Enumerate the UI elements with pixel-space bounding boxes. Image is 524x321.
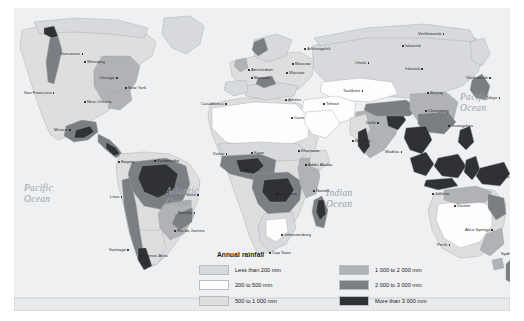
city-name: Brasilia xyxy=(178,210,192,215)
region-new-zealand xyxy=(506,260,510,282)
legend-swatch-more-than-3000 xyxy=(339,296,369,306)
city-label: Amsterdam xyxy=(248,68,273,72)
city-name: Cairo xyxy=(294,115,304,120)
city-label: Omsk xyxy=(355,61,369,65)
legend-label-2000-to-3000: 2 000 to 3 000 mm xyxy=(375,282,422,288)
city-marker-dot xyxy=(499,97,501,99)
legend-column-right: 1 000 to 2 000 mm 2 000 to 3 000 mm More… xyxy=(339,263,427,310)
indian-ocean: IndianOcean xyxy=(326,188,353,210)
city-name: Jakarta xyxy=(435,191,449,196)
city-label: Chicago xyxy=(99,76,118,80)
city-label: Bogota xyxy=(118,160,135,164)
city-marker-dot xyxy=(82,53,84,55)
city-marker-dot xyxy=(454,205,456,207)
city-label: Vladivostok xyxy=(466,76,491,80)
city-marker-dot xyxy=(118,161,120,163)
city-marker-dot xyxy=(491,229,493,231)
city-name: Addis Ababa xyxy=(308,162,332,167)
city-label: Khartoum xyxy=(298,149,320,153)
city-name: Warsaw xyxy=(289,70,304,75)
ocean-label-line: Ocean xyxy=(166,197,198,208)
city-label: Brussels xyxy=(251,76,270,80)
city-marker-dot xyxy=(298,150,300,152)
city-name: San Francisco xyxy=(24,90,51,95)
city-marker-dot xyxy=(194,212,196,214)
legend-item: 500 to 1 000 mm xyxy=(199,294,281,307)
ocean-label-line: Pacific xyxy=(460,92,489,103)
ocean-label-line: Indian xyxy=(326,188,353,199)
city-marker-dot xyxy=(125,87,127,89)
city-label: Lagos xyxy=(245,168,260,172)
city-name: Perth xyxy=(437,242,447,247)
city-name: Guangzhou xyxy=(451,123,473,128)
city-name: Buenos Aires xyxy=(143,253,168,258)
city-label: Vancouver xyxy=(60,52,83,56)
legend-item: 200 to 500 mm xyxy=(199,279,281,292)
region-sahara-dry xyxy=(212,102,310,148)
ocean-label-line: Ocean xyxy=(326,199,353,210)
city-name: Lagos xyxy=(248,167,260,172)
city-marker-dot xyxy=(69,129,71,131)
city-label: Buenos Aires xyxy=(140,254,168,258)
city-label: Jakarta xyxy=(432,192,449,196)
city-label: Athens xyxy=(285,98,301,102)
city-label: Madras xyxy=(385,150,402,154)
city-marker-dot xyxy=(427,92,429,94)
city-label: Lima xyxy=(110,195,122,199)
city-label: Rio de Janeiro xyxy=(174,229,205,233)
city-label: Warsaw xyxy=(286,71,304,75)
city-label: Arkhangelsk xyxy=(304,47,331,51)
city-label: Dakar xyxy=(213,152,227,156)
city-marker-dot xyxy=(432,193,434,195)
city-marker-dot xyxy=(245,169,247,171)
city-name: Jayapura xyxy=(492,174,510,179)
region-sumatra-dark xyxy=(410,152,434,176)
city-marker-dot xyxy=(402,45,404,47)
region-indochina-dark xyxy=(404,126,432,154)
city-label: Addis Ababa xyxy=(305,163,332,167)
city-marker-dot xyxy=(425,110,427,112)
city-marker-dot xyxy=(304,48,306,50)
city-marker-dot xyxy=(285,99,287,101)
city-label: Casablanca xyxy=(201,102,227,106)
city-marker-dot xyxy=(291,117,293,119)
region-java-dark xyxy=(424,178,458,190)
city-label: Perth xyxy=(437,243,450,247)
city-name: Sydney xyxy=(501,251,510,256)
city-name: Amsterdam xyxy=(251,67,273,72)
city-marker-dot xyxy=(362,90,364,92)
city-marker-dot xyxy=(174,230,176,232)
city-label: Darwin xyxy=(454,204,470,208)
city-marker-dot xyxy=(154,160,156,162)
city-name: Tehran xyxy=(326,101,339,106)
pacific-ocean-right: PacificOcean xyxy=(460,92,489,114)
city-marker-dot xyxy=(305,164,307,166)
city-name: Kano xyxy=(254,150,264,155)
legend-swatch-less-than-200 xyxy=(199,265,229,275)
city-name: Irkoutsk xyxy=(405,66,420,71)
legend-label-200-to-500: 200 to 500 mm xyxy=(235,282,272,288)
city-label: Iakoutsk xyxy=(402,44,421,48)
city-label: Jayapura xyxy=(492,175,510,179)
ocean-label-line: Atlantic xyxy=(166,186,198,197)
city-label: Moscow xyxy=(292,62,311,66)
city-label: Kano xyxy=(251,151,264,155)
city-name: Paramaribo xyxy=(157,158,179,163)
city-marker-dot xyxy=(53,92,55,94)
legend-swatch-1000-to-2000 xyxy=(339,265,369,275)
city-name: Chongqing xyxy=(428,108,449,113)
city-label: Verkhoiansk xyxy=(418,32,444,36)
city-name: Chicago xyxy=(99,75,115,80)
city-name: Bombay xyxy=(355,138,371,143)
city-label: Sydney xyxy=(501,252,510,256)
city-label: Winnipeg xyxy=(84,60,105,64)
city-marker-dot xyxy=(276,193,278,195)
city-label: Brasilia xyxy=(178,211,195,215)
city-label: Beijing xyxy=(427,91,443,95)
city-marker-dot xyxy=(489,77,491,79)
ocean-label-line: Pacific xyxy=(24,183,53,194)
city-name: Santiago xyxy=(109,247,126,252)
city-label: Bombay xyxy=(352,139,371,143)
city-name: Brussels xyxy=(254,75,270,80)
legend-item: 2 000 to 3 000 mm xyxy=(339,279,427,292)
